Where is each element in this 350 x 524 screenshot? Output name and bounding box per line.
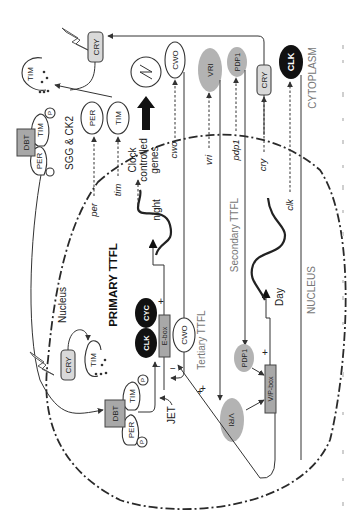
plus-jet: + xyxy=(200,383,206,394)
vp-box-promoter: V/P-box xyxy=(265,365,276,413)
plus-secondary: + xyxy=(262,347,268,358)
vri-protein-top: VRI xyxy=(198,48,222,92)
clk-protein-right: CLK xyxy=(279,45,303,79)
day-wave xyxy=(252,198,285,300)
cry-label-top: CRY xyxy=(92,38,101,55)
cytoplasm-label: CYTOPLASM xyxy=(307,47,318,109)
clk-protein: CLK xyxy=(135,328,157,358)
tim-protein: TIM xyxy=(107,102,129,134)
svg-text:CLK: CLK xyxy=(142,335,151,351)
minus-ebox: − xyxy=(170,363,176,374)
gene-per: per xyxy=(88,202,99,218)
svg-text:CLK: CLK xyxy=(286,52,296,71)
svg-text:P: P xyxy=(47,111,53,115)
cyc-protein: CYC xyxy=(135,298,157,328)
dbt-per-tim-complex-top: PER TIM P DBT xyxy=(17,108,55,176)
output-label-line1: Clock xyxy=(127,147,138,173)
jet-label: JET xyxy=(166,406,177,424)
cwo-protein-top: CWO xyxy=(165,42,185,78)
svg-text:CYC: CYC xyxy=(142,305,151,321)
svg-text:TIM: TIM xyxy=(89,353,98,367)
svg-text:E-box: E-box xyxy=(161,326,168,345)
svg-text:DBT: DBT xyxy=(22,134,31,150)
dbt-per-tim-complex-nucleus: PER TIM P P DBT xyxy=(105,375,148,447)
svg-text:TIM: TIM xyxy=(36,123,45,137)
light-bolt-icon-top xyxy=(62,28,88,50)
cry-protein-right: CRY xyxy=(257,65,271,95)
circadian-clock-diagram: CRY TIM PER TIM P DBT SGG & CK2 PER TIM … xyxy=(0,0,350,524)
svg-text:CRY: CRY xyxy=(260,71,269,88)
gene-cry: cry xyxy=(257,157,268,171)
gene-tim: tim xyxy=(112,184,123,197)
nucleus-label: NUCLEUS xyxy=(306,266,317,314)
secondary-ttfl-label: Secondary TTFL xyxy=(229,197,240,272)
gene-cwo: cwo xyxy=(168,142,179,159)
svg-text:PDP1: PDP1 xyxy=(241,349,248,367)
kinases-label: SGG & CK2 xyxy=(64,116,75,170)
gene-clk: clk xyxy=(284,198,295,211)
svg-text:CWO: CWO xyxy=(180,325,189,345)
svg-text:VRI: VRI xyxy=(227,413,236,426)
svg-text:VRI: VRI xyxy=(206,63,215,76)
oscillation-icon xyxy=(131,57,161,87)
output-label-line2: controlled xyxy=(138,138,149,181)
svg-text:DBT: DBT xyxy=(111,405,120,421)
svg-text:CWO: CWO xyxy=(171,50,180,70)
gene-vri: vri xyxy=(203,154,214,165)
svg-text:PER: PER xyxy=(88,110,97,127)
svg-text:V/P-box: V/P-box xyxy=(267,376,274,401)
svg-text:PDP1: PDP1 xyxy=(234,53,241,71)
svg-text:CRY: CRY xyxy=(64,356,73,373)
pdp1-protein-bottom: PDP1 xyxy=(234,344,254,372)
cry-protein-top: CRY xyxy=(88,32,103,62)
svg-text:PER: PER xyxy=(127,422,136,439)
cwo-protein-bottom: CWO xyxy=(173,318,195,352)
per-protein: PER xyxy=(81,102,103,134)
output-label-line3: genes xyxy=(149,146,160,173)
svg-text:PER: PER xyxy=(35,153,44,170)
svg-text:TIM: TIM xyxy=(26,67,35,81)
tim-degraded-nucleus: TIM xyxy=(85,341,107,377)
phase-day: Day xyxy=(274,288,285,306)
nucleus-inner-label: Nucleus xyxy=(57,287,68,323)
tertiary-ttfl-label: Tertiary TTFL xyxy=(196,310,207,370)
tim-degraded-top: TIM xyxy=(22,58,49,94)
output-arrow xyxy=(137,96,155,130)
minus-clk: − xyxy=(155,361,161,372)
cry-tim-link xyxy=(70,62,95,90)
svg-text:TIM: TIM xyxy=(114,111,123,125)
diagram-canvas: CRY TIM PER TIM P DBT SGG & CK2 PER TIM … xyxy=(0,0,350,524)
primary-ttfl-label: PRIMARY TTFL xyxy=(107,243,119,327)
vri-protein-bottom: VRI xyxy=(220,398,244,442)
caption-strip xyxy=(342,45,344,506)
svg-text:P: P xyxy=(140,378,146,382)
plus-primary: + xyxy=(158,296,164,307)
light-bolt-icon-bottom xyxy=(30,352,54,375)
phase-night: night xyxy=(151,199,162,221)
svg-text:P: P xyxy=(139,440,145,444)
per-tim-repress-arrow xyxy=(138,362,155,412)
svg-text:TIM: TIM xyxy=(128,389,137,403)
pdp1-protein-top: PDP1 xyxy=(227,47,247,77)
gene-pdp1: pdp1 xyxy=(230,139,241,161)
ebox-promoter: E-box xyxy=(159,315,170,357)
cry-protein-nucleus: CRY xyxy=(61,350,75,380)
